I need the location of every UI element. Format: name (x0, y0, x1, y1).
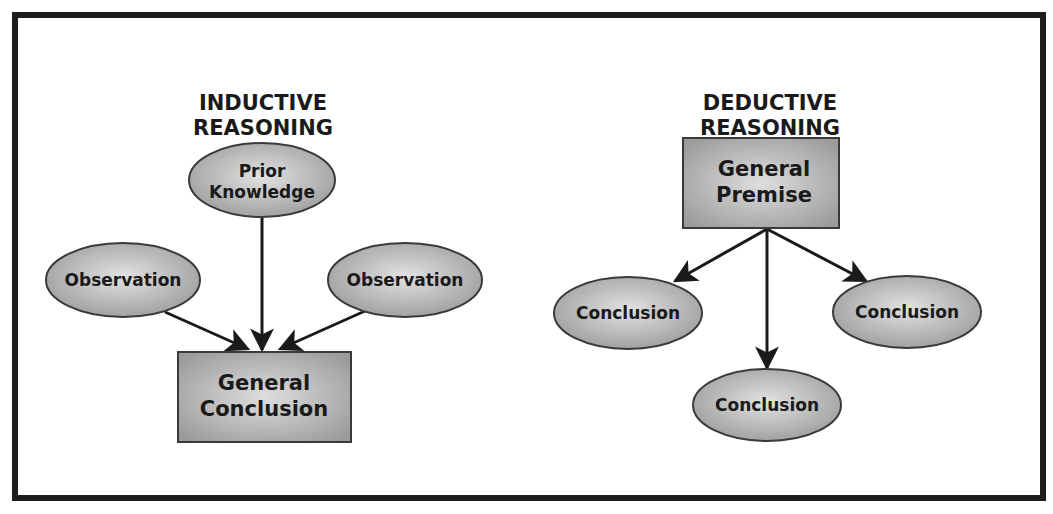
deductive-section: DEDUCTIVE REASONING General Premise Conc… (554, 91, 981, 441)
node-label: Conclusion (855, 302, 959, 322)
node-label: Observation (65, 270, 182, 290)
node-label-line1: General (218, 371, 310, 395)
node-label: Observation (347, 270, 464, 290)
node-label-line2: Conclusion (200, 397, 328, 421)
inductive-title-line2: REASONING (193, 116, 333, 140)
node-label-line2: Premise (716, 183, 812, 207)
arrow-observation-left-to-conclusion (165, 312, 248, 349)
node-conclusion-left: Conclusion (554, 277, 702, 349)
node-general-conclusion: General Conclusion (178, 352, 351, 442)
deductive-title-line1: DEDUCTIVE (703, 91, 837, 115)
node-general-premise: General Premise (683, 138, 839, 228)
deductive-title-line2: REASONING (700, 116, 840, 140)
inductive-title-line1: INDUCTIVE (199, 91, 327, 115)
node-conclusion-bottom: Conclusion (693, 369, 841, 441)
node-observation-right: Observation (328, 243, 482, 317)
node-label-line1: General (718, 157, 810, 181)
node-label: Conclusion (576, 303, 680, 323)
reasoning-diagram: INDUCTIVE REASONING Prior Knowledge Obse… (0, 0, 1053, 514)
arrow-premise-to-conclusion-right (767, 229, 866, 281)
node-label-line2: Knowledge (209, 182, 315, 202)
node-label: Conclusion (715, 395, 819, 415)
node-conclusion-right: Conclusion (833, 276, 981, 348)
node-label-line1: Prior (239, 161, 286, 181)
arrow-premise-to-conclusion-left (675, 229, 767, 281)
node-observation-left: Observation (46, 243, 200, 317)
arrow-observation-right-to-conclusion (280, 311, 365, 349)
inductive-section: INDUCTIVE REASONING Prior Knowledge Obse… (46, 91, 482, 442)
node-prior-knowledge: Prior Knowledge (189, 143, 335, 217)
